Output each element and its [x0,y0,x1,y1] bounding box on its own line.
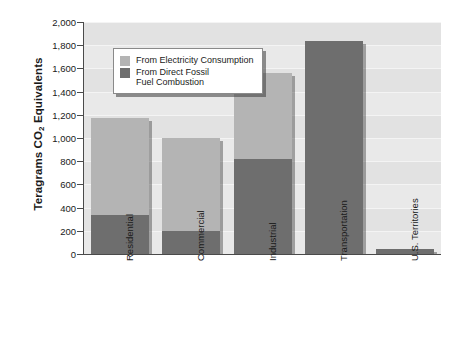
y-axis-tick-label: 1,600 [34,63,76,74]
legend-swatch-fossil [120,68,130,78]
bar-segment-electricity [162,138,220,231]
x-axis-label-industrial: Industrial [267,222,278,261]
y-axis-tick-label: 1,200 [34,109,76,120]
bar-transportation[interactable] [305,41,363,254]
y-axis-tick-label: 600 [34,179,76,190]
x-axis-label-residential: Residential [124,214,135,261]
bar-segment-fossil [234,159,292,254]
legend-item: From Electricity Consumption [120,55,254,66]
bar-chart: Teragrams CO2 Equivalents 02004006008001… [0,0,459,339]
y-axis-tick-label: 1,400 [34,86,76,97]
y-axis-line [83,22,84,255]
legend-item: From Direct Fossil Fuel Combustion [120,67,254,87]
bar-segment-fossil [162,231,220,254]
x-axis-label-commercial: Commercial [195,210,206,261]
bar-residential[interactable] [91,118,149,254]
y-axis-tick-label: 200 [34,225,76,236]
y-axis-tick-label: 1,000 [34,133,76,144]
x-axis-label-transportation: Transportation [338,200,349,261]
bar-commercial[interactable] [162,138,220,254]
y-axis-tick-label: 800 [34,156,76,167]
x-axis-label-u-s-territories: U.S. Territories [409,198,420,261]
y-axis-tick-labels: 02004006008001,0001,2001,4001,6001,8002,… [34,0,76,339]
legend-swatch-electricity [120,56,130,66]
y-axis-tick-label: 0 [34,249,76,260]
y-axis-tick-label: 1,800 [34,40,76,51]
legend-label: From Direct Fossil Fuel Combustion [136,67,209,87]
legend: From Electricity ConsumptionFrom Direct … [113,48,263,94]
gridline [84,45,441,46]
legend-label: From Electricity Consumption [136,55,254,65]
bar-segment-fossil [91,215,149,254]
bar-industrial[interactable] [234,73,292,254]
bar-segment-fossil [305,41,363,254]
gridline [84,22,441,23]
bar-segment-electricity [91,118,149,215]
y-axis-tick-label: 2,000 [34,17,76,28]
y-axis-tick-label: 400 [34,202,76,213]
